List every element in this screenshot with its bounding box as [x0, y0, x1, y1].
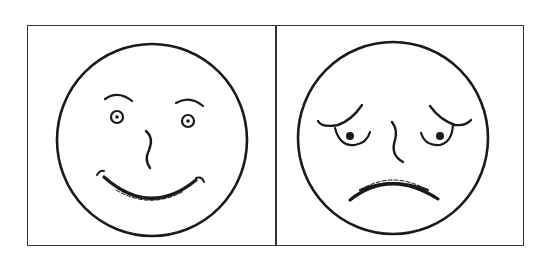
- faces-illustration: [0, 0, 542, 263]
- happy-face-icon: [57, 44, 247, 236]
- sad-face-icon: [298, 42, 488, 234]
